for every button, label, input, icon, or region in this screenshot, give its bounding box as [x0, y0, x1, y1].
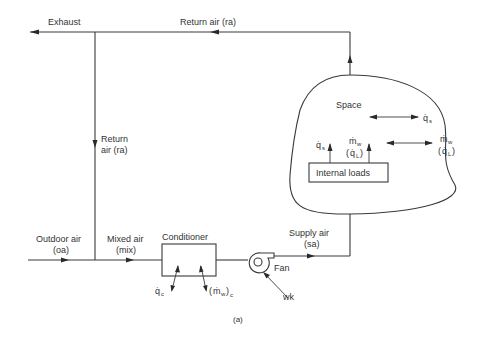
- supply-air-arrow: [307, 254, 315, 259]
- internal-qs-symbol: q̇ s: [316, 140, 325, 151]
- space-qs-arrow-left: [369, 115, 377, 120]
- svg-text:q̇: q̇: [155, 286, 160, 296]
- conditioner-qc-symbol: q̇ c: [155, 286, 164, 297]
- internal-loads-label: Internal loads: [316, 168, 371, 178]
- svg-text:q̇: q̇: [350, 148, 355, 158]
- outdoor-air-label-1: Outdoor air: [36, 234, 81, 244]
- svg-text:(: (: [438, 146, 441, 156]
- svg-text:q̇: q̇: [442, 146, 447, 156]
- qc-arrow-head-up: [175, 265, 180, 273]
- svg-text:(: (: [346, 148, 349, 158]
- fan-label: Fan: [274, 263, 290, 273]
- space-boundary: [290, 75, 456, 214]
- return-air-vertical-label-2: air (ra): [101, 145, 128, 155]
- exhaust-arrow: [30, 30, 39, 35]
- supply-air-label-1: Supply air: [289, 228, 329, 238]
- outside-qL-symbol: ( q̇ L ): [438, 146, 455, 157]
- return-riser-arrow: [348, 55, 353, 63]
- internal-qL-symbol: ( q̇ L ): [346, 148, 363, 159]
- mixed-air-label-2: (mix): [116, 245, 136, 255]
- svg-text:(: (: [209, 286, 212, 296]
- space-label: Space: [336, 100, 362, 110]
- conditioner-mwc-symbol: ( ṁ w ) c: [209, 286, 233, 298]
- svg-text:ṁ: ṁ: [440, 134, 448, 144]
- outdoor-air-arrow: [61, 258, 69, 263]
- hvac-system-diagram: Exhaust Return air (ra) Return air (ra) …: [0, 0, 479, 345]
- conditioner-label: Conditioner: [162, 232, 208, 242]
- conditioner-box: [162, 244, 216, 276]
- mwc-arrow-head-down: [203, 285, 208, 292]
- internal-mw-symbol: ṁ w: [349, 136, 362, 147]
- space-qs-symbol: q̇ s: [423, 113, 432, 124]
- svg-text:q̇: q̇: [316, 140, 321, 150]
- work-label: wk: [282, 292, 294, 302]
- space-qs-arrow-right: [411, 115, 419, 120]
- svg-text:q̇: q̇: [423, 113, 428, 123]
- figure-caption: (a): [233, 315, 243, 324]
- svg-text:c: c: [161, 291, 164, 297]
- svg-text:ṁ: ṁ: [349, 136, 357, 146]
- return-air-arrow: [210, 30, 219, 35]
- svg-text:ṁ: ṁ: [213, 286, 221, 296]
- svg-text:w: w: [447, 139, 453, 145]
- fan-icon: [249, 253, 274, 273]
- return-air-vertical-label-1: Return: [101, 134, 128, 144]
- qc-arrow-head-down: [171, 285, 176, 292]
- svg-text:): ): [360, 148, 363, 158]
- mixed-air-label-1: Mixed air: [107, 234, 144, 244]
- return-air-top-label: Return air (ra): [180, 17, 236, 27]
- outside-mw-symbol: ṁ w: [440, 134, 453, 145]
- svg-text:s: s: [429, 118, 432, 124]
- exhaust-label: Exhaust: [48, 17, 81, 27]
- internal-mw-arrow-head: [367, 143, 372, 151]
- svg-text:c: c: [230, 292, 233, 298]
- outdoor-air-label-2: (oa): [53, 245, 69, 255]
- internal-qs-arrow-head: [328, 143, 333, 151]
- svg-text:s: s: [322, 145, 325, 151]
- mixed-air-arrow: [126, 258, 134, 263]
- supply-air-label-2: (sa): [304, 239, 320, 249]
- svg-text:): ): [226, 286, 229, 296]
- space-mw-arrow-left: [386, 141, 394, 146]
- svg-text:): ): [452, 146, 455, 156]
- space-mw-arrow-right: [425, 141, 433, 146]
- svg-text:w: w: [356, 141, 362, 147]
- return-branch-arrow: [93, 140, 98, 148]
